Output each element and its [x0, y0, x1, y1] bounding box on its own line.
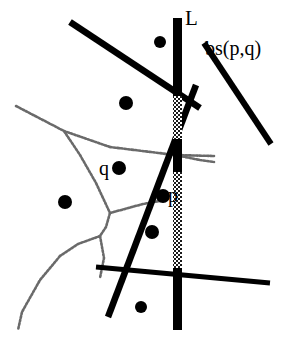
voronoi-edge [100, 213, 110, 236]
label-site-q: q [99, 158, 109, 178]
site-point [154, 36, 166, 48]
site-point-q [112, 161, 126, 175]
label-bisector: bs(p,q) [205, 38, 261, 58]
line-L [173, 18, 182, 330]
site-point [135, 301, 147, 313]
voronoi-edge [60, 236, 100, 256]
steep-line [108, 85, 196, 317]
site-point [119, 96, 133, 110]
voronoi-edge [18, 256, 60, 330]
line-L-segment-solid-bottom [173, 268, 182, 330]
site-point [145, 225, 159, 239]
line-L-segment-hatched-upper [173, 96, 182, 139]
label-site-p: p [168, 185, 178, 205]
voronoi-figure: L bs(p,q) p q [0, 0, 293, 341]
site-point [58, 195, 72, 209]
voronoi-edge [110, 200, 165, 213]
voronoi-edge [110, 147, 214, 156]
voronoi-edge [16, 106, 110, 147]
label-line-L: L [185, 8, 198, 29]
voronoi-edge [100, 236, 104, 278]
line-L-segment-solid-top [173, 18, 182, 96]
line-L-segment-solid-middle [173, 139, 182, 172]
